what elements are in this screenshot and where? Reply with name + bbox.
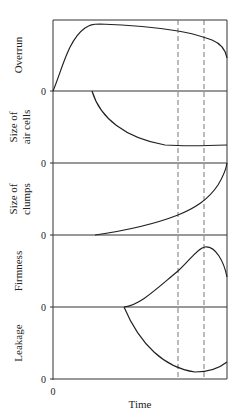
ylabel-air-cells-line2: air cells bbox=[20, 110, 32, 145]
dashed-markers bbox=[178, 20, 204, 379]
curves bbox=[53, 24, 227, 372]
stacked-time-chart: 0 0 0 0 0 0 Overrun Size of air cells Si… bbox=[0, 0, 239, 419]
plot-frame bbox=[53, 20, 227, 380]
panel-baselines bbox=[50, 91, 227, 379]
ylabel-air-cells-line1: Size of bbox=[7, 111, 19, 142]
zero-label-firmness: 0 bbox=[41, 302, 46, 313]
zero-label-clumps: 0 bbox=[41, 230, 46, 241]
clumps-curve bbox=[95, 163, 227, 235]
firmness-curve bbox=[124, 247, 227, 307]
ylabel-overrun: Overrun bbox=[12, 36, 24, 73]
x-zero-label: 0 bbox=[51, 386, 56, 397]
zero-label-overrun: 0 bbox=[41, 86, 46, 97]
ylabel-firmness: Firmness bbox=[12, 251, 24, 291]
air-cells-curve bbox=[92, 91, 227, 146]
overrun-curve bbox=[53, 24, 227, 91]
ylabel-clumps-line1: Size of bbox=[7, 183, 19, 214]
x-axis-label: Time bbox=[129, 398, 152, 410]
leakage-curve bbox=[124, 307, 227, 372]
zero-label-leakage: 0 bbox=[41, 374, 46, 385]
ylabel-leakage: Leakage bbox=[12, 324, 24, 361]
ylabel-clumps-line2: clumps bbox=[20, 183, 32, 215]
zero-labels: 0 0 0 0 0 bbox=[41, 86, 46, 385]
zero-label-air-cells: 0 bbox=[41, 158, 46, 169]
panel-labels: Overrun Size of air cells Size of clumps… bbox=[7, 36, 32, 361]
